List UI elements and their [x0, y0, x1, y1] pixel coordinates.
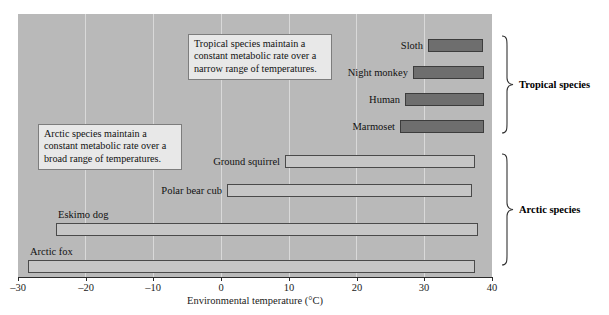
x-tick-label-minus10: –10 [145, 282, 161, 294]
bar-human [405, 93, 484, 106]
callout-tropical-note: Tropical species maintain a constant met… [188, 34, 332, 80]
bar-polar-bear-cub [227, 184, 472, 197]
bar-eskimo-dog [56, 223, 478, 236]
x-axis-line [18, 277, 492, 278]
group-label-arctic: Arctic species [519, 204, 580, 216]
x-tick-minus10 [153, 277, 154, 281]
callout-tropical-line3: narrow range of temperatures. [194, 63, 326, 75]
x-tick-label-40: 40 [487, 282, 498, 294]
metabolic-rate-temperature-chart: Sloth Night monkey Human Marmoset Ground… [0, 0, 609, 315]
bar-label-polar-bear-cub: Polar bear cub [138, 184, 222, 197]
bar-arctic-fox [28, 260, 475, 273]
curly-brace-icon [500, 152, 516, 267]
bar-night-monkey [413, 66, 484, 79]
bar-label-night-monkey: Night monkey [323, 66, 408, 79]
gridline-30 [424, 14, 425, 277]
x-tick-30 [424, 277, 425, 281]
bar-label-arctic-fox: Arctic fox [30, 245, 130, 258]
x-tick-10 [289, 277, 290, 281]
x-tick-label-30: 30 [419, 282, 430, 294]
group-label-tropical: Tropical species [519, 79, 590, 91]
x-tick-label-20: 20 [352, 282, 363, 294]
group-bracket-arctic [500, 152, 516, 267]
callout-tropical-line2: constant metabolic rate over a [194, 50, 326, 62]
bar-marmoset [400, 120, 484, 133]
x-tick-label-zero: 0 [218, 282, 223, 294]
x-tick-minus30 [18, 277, 19, 281]
bar-label-sloth: Sloth [348, 39, 423, 52]
bar-label-ground-squirrel: Ground squirrel [190, 155, 280, 168]
callout-tropical-line1: Tropical species maintain a [194, 38, 326, 50]
curly-brace-icon [500, 34, 516, 135]
gridline-20 [356, 14, 357, 277]
x-tick-20 [357, 277, 358, 281]
bar-sloth [428, 39, 483, 52]
bar-label-eskimo-dog: Eskimo dog [58, 208, 158, 221]
x-tick-40 [492, 277, 493, 281]
x-tick-label-minus30: –30 [10, 282, 26, 294]
bar-ground-squirrel [285, 155, 475, 168]
x-tick-minus20 [86, 277, 87, 281]
callout-arctic-line3: broad range of temperatures. [44, 153, 176, 165]
x-tick-label-10: 10 [284, 282, 295, 294]
plot-area: Sloth Night monkey Human Marmoset Ground… [18, 14, 492, 277]
bar-label-marmoset: Marmoset [311, 120, 395, 133]
group-bracket-tropical [500, 34, 516, 135]
callout-arctic-line1: Arctic species maintain a [44, 128, 176, 140]
x-axis-title: Environmental temperature (°C) [18, 295, 492, 307]
x-tick-zero [221, 277, 222, 281]
bar-label-human: Human [318, 93, 400, 106]
x-tick-label-minus20: –20 [78, 282, 94, 294]
callout-arctic-note: Arctic species maintain a constant metab… [38, 124, 182, 170]
callout-arctic-line2: constant metabolic rate over a [44, 140, 176, 152]
